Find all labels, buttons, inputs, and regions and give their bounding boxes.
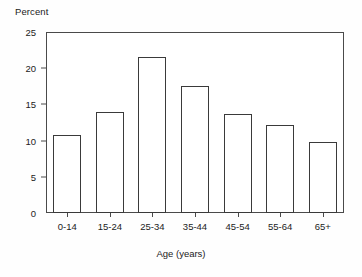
x-tick-mark — [238, 213, 239, 217]
plot-area: 0510152025 — [46, 32, 344, 213]
bar — [224, 114, 252, 213]
x-tick-label: 55-64 — [268, 221, 292, 232]
y-tick-label: 25 — [25, 27, 36, 38]
y-tick-label: 20 — [25, 63, 36, 74]
bar — [96, 112, 124, 213]
y-tick-label: 5 — [31, 171, 36, 182]
y-tick-mark — [41, 176, 46, 177]
y-tick-label: 0 — [31, 208, 36, 219]
y-axis-title: Percent — [15, 6, 48, 17]
x-tick-mark — [110, 213, 111, 217]
bar-chart-figure: Percent 0510152025 0-1415-2425-3435-4445… — [0, 0, 362, 277]
y-tick-mark — [41, 68, 46, 69]
bar — [53, 135, 81, 213]
x-tick-mark — [67, 213, 68, 217]
x-tick-label: 45-54 — [225, 221, 249, 232]
bar — [266, 125, 294, 213]
bar — [181, 86, 209, 213]
x-tick-mark — [152, 213, 153, 217]
x-axis-title: Age (years) — [0, 248, 362, 259]
x-tick-mark — [280, 213, 281, 217]
x-tick-mark — [195, 213, 196, 217]
y-tick-mark — [41, 140, 46, 141]
x-tick-label: 25-34 — [140, 221, 164, 232]
x-tick-label: 15-24 — [98, 221, 122, 232]
x-tick-mark — [323, 213, 324, 217]
y-tick-mark — [41, 104, 46, 105]
y-tick-label: 10 — [25, 135, 36, 146]
x-tick-label: 35-44 — [183, 221, 207, 232]
x-tick-label: 0-14 — [58, 221, 77, 232]
bar — [138, 57, 166, 213]
y-tick-label: 15 — [25, 99, 36, 110]
x-tick-label: 65+ — [315, 221, 331, 232]
bar — [309, 142, 337, 213]
